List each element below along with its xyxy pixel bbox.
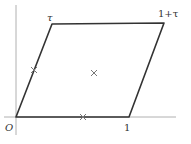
period-parallelogram — [16, 23, 164, 117]
label-one-plus-tau: 1+τ — [158, 8, 179, 19]
label-one: 1 — [124, 122, 130, 133]
parallelogram-diagram: O 1 τ 1+τ — [0, 0, 191, 144]
label-tau: τ — [47, 12, 53, 23]
cross-center — [91, 70, 97, 76]
label-origin: O — [5, 122, 13, 133]
